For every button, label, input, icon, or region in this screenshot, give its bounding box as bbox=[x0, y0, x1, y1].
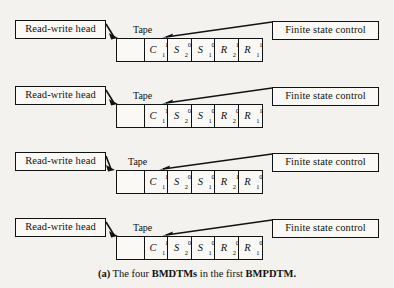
turing-machine-figure: Read-write headFinite state controlTapeC… bbox=[0, 0, 394, 288]
symbol-base: C bbox=[150, 44, 157, 55]
tape-cell: S20 bbox=[167, 170, 192, 194]
tape-symbol: S20 bbox=[174, 45, 185, 56]
tape-symbol: S10 bbox=[198, 111, 209, 122]
symbol-subscript: 2 bbox=[185, 52, 188, 59]
symbol-subscript: 1 bbox=[256, 250, 259, 257]
tape: C11S20S10R21R11 bbox=[116, 38, 263, 62]
symbol-base: R bbox=[221, 176, 227, 187]
tape-symbol: R11 bbox=[244, 45, 256, 56]
tape-symbol: S10 bbox=[198, 177, 209, 188]
symbol-base: C bbox=[150, 242, 157, 253]
symbol-subscript: 1 bbox=[162, 250, 165, 257]
tape-cell: C11 bbox=[144, 236, 169, 260]
tape-cell: S10 bbox=[191, 104, 216, 128]
symbol-base: C bbox=[150, 110, 157, 121]
symbol-subscript: 1 bbox=[256, 52, 259, 59]
symbol-subscript: 1 bbox=[208, 250, 211, 257]
symbol-subscript: 1 bbox=[208, 118, 211, 125]
control-pointer-line bbox=[163, 154, 272, 169]
symbol-subscript: 1 bbox=[162, 184, 165, 191]
tape-symbol: S20 bbox=[174, 243, 185, 254]
tape-label: Tape bbox=[133, 25, 152, 35]
tape-cell: S20 bbox=[167, 236, 192, 260]
tape-label: Tape bbox=[128, 157, 147, 167]
tape: C11S20S10R20R10 bbox=[116, 236, 263, 260]
tape-symbol: R20 bbox=[221, 111, 233, 122]
tape-cell: R20 bbox=[214, 236, 239, 260]
symbol-base: S bbox=[174, 242, 179, 253]
finite-state-control-box: Finite state control bbox=[272, 87, 379, 106]
read-write-head-box: Read-write head bbox=[15, 86, 106, 105]
read-write-head-box: Read-write head bbox=[15, 20, 106, 39]
symbol-superscript: 0 bbox=[259, 240, 262, 247]
tape: C11S20S10R21R10 bbox=[116, 170, 263, 194]
machine-row-3: Read-write headFinite state controlTapeC… bbox=[0, 132, 394, 198]
symbol-superscript: 0 bbox=[259, 174, 262, 181]
symbol-base: R bbox=[244, 176, 250, 187]
machine-row-2: Read-write headFinite state controlTapeC… bbox=[0, 66, 394, 132]
caption-text-1: The four bbox=[113, 268, 149, 279]
control-pointer-line bbox=[166, 22, 272, 37]
tape-cell: S10 bbox=[191, 170, 216, 194]
tape-cell: S20 bbox=[167, 104, 192, 128]
symbol-base: C bbox=[150, 176, 157, 187]
tape-label: Tape bbox=[133, 91, 152, 101]
symbol-base: S bbox=[174, 110, 179, 121]
tape-cell-blank bbox=[116, 170, 145, 194]
symbol-base: R bbox=[244, 44, 250, 55]
finite-state-control-label: Finite state control bbox=[285, 25, 366, 36]
machine-row-1: Read-write headFinite state controlTapeC… bbox=[0, 0, 394, 66]
symbol-subscript: 1 bbox=[208, 184, 211, 191]
read-write-head-label: Read-write head bbox=[25, 222, 96, 233]
tape-cell: R11 bbox=[238, 38, 263, 62]
tape-cell-blank bbox=[116, 38, 145, 62]
tape-symbol: C11 bbox=[150, 111, 163, 122]
tape-symbol: C11 bbox=[150, 243, 163, 254]
caption-bold-2: BMPDTM. bbox=[246, 268, 296, 279]
symbol-subscript: 2 bbox=[233, 52, 236, 59]
symbol-base: R bbox=[244, 110, 250, 121]
tape-symbol: S20 bbox=[174, 111, 185, 122]
tape-label: Tape bbox=[133, 223, 152, 233]
tape-cell: S10 bbox=[191, 236, 216, 260]
tape-symbol: R10 bbox=[244, 177, 256, 188]
finite-state-control-box: Finite state control bbox=[272, 21, 379, 40]
tape: C11S20S10R20R11 bbox=[116, 104, 263, 128]
symbol-subscript: 2 bbox=[185, 250, 188, 257]
control-pointer-line bbox=[166, 88, 272, 103]
finite-state-control-label: Finite state control bbox=[285, 91, 366, 102]
tape-symbol: S10 bbox=[198, 243, 209, 254]
tape-symbol: R21 bbox=[221, 177, 233, 188]
tape-cell: R21 bbox=[214, 170, 239, 194]
symbol-subscript: 2 bbox=[233, 118, 236, 125]
symbol-base: S bbox=[198, 242, 203, 253]
tape-cell: R10 bbox=[238, 236, 263, 260]
tape-cell: R21 bbox=[214, 38, 239, 62]
finite-state-control-label: Finite state control bbox=[285, 223, 366, 234]
symbol-subscript: 2 bbox=[185, 118, 188, 125]
tape-symbol: C11 bbox=[150, 45, 163, 56]
read-write-head-label: Read-write head bbox=[25, 24, 96, 35]
symbol-base: R bbox=[221, 242, 227, 253]
tape-cell: R10 bbox=[238, 170, 263, 194]
symbol-subscript: 1 bbox=[208, 52, 211, 59]
symbol-base: S bbox=[198, 176, 203, 187]
tape-cell: C11 bbox=[144, 104, 169, 128]
finite-state-control-box: Finite state control bbox=[272, 219, 379, 238]
finite-state-control-label: Finite state control bbox=[285, 157, 366, 168]
tape-symbol: R21 bbox=[221, 45, 233, 56]
tape-cell: S20 bbox=[167, 38, 192, 62]
read-write-head-label: Read-write head bbox=[25, 156, 96, 167]
read-write-head-box: Read-write head bbox=[15, 152, 106, 171]
symbol-base: S bbox=[198, 110, 203, 121]
symbol-base: R bbox=[221, 44, 227, 55]
caption-bold-1: BMDTMs bbox=[152, 268, 198, 279]
caption-label: (a) bbox=[98, 268, 110, 279]
read-write-head-label: Read-write head bbox=[25, 90, 96, 101]
tape-cell: R20 bbox=[214, 104, 239, 128]
symbol-subscript: 1 bbox=[256, 184, 259, 191]
tape-cell: C11 bbox=[144, 38, 169, 62]
symbol-base: R bbox=[244, 242, 250, 253]
tape-cell-blank bbox=[116, 236, 145, 260]
tape-symbol: R11 bbox=[244, 111, 256, 122]
